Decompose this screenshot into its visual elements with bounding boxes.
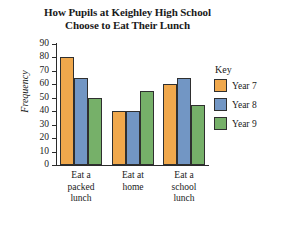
bar-year-7 (163, 84, 177, 165)
bar-chart: How Pupils at Keighley High School Choos… (0, 0, 288, 229)
bar-year-8 (126, 111, 140, 165)
chart-title-line-2: Choose to Eat Their Lunch (30, 19, 225, 32)
category-label-line: lunch (48, 193, 114, 205)
bar-group (60, 44, 102, 165)
legend: Key Year 7Year 8Year 9 (214, 64, 257, 136)
bar-year-8 (177, 78, 191, 165)
category-label-line: lunch (151, 193, 217, 205)
legend-title: Key (214, 64, 257, 75)
category-label-line: Eat a (151, 170, 217, 182)
bar-year-9 (140, 91, 154, 165)
y-tick-label: 70 (9, 66, 49, 76)
legend-item-year-9[interactable]: Year 9 (214, 117, 257, 130)
y-tick-label: 60 (9, 79, 49, 89)
bar-year-7 (60, 57, 74, 165)
legend-rows: Year 7Year 8Year 9 (214, 79, 257, 130)
legend-item-year-7[interactable]: Year 7 (214, 79, 257, 92)
y-tick-label: 0 (9, 160, 49, 170)
y-tick-mark (52, 165, 57, 166)
legend-swatch-icon (214, 79, 227, 92)
bar-year-7 (112, 111, 126, 165)
bar-year-8 (74, 78, 88, 165)
plot-area (57, 44, 208, 165)
chart-title-line-1: How Pupils at Keighley High School (30, 6, 225, 19)
legend-label: Year 8 (232, 100, 257, 110)
y-tick-label: 50 (9, 93, 49, 103)
y-tick-label: 20 (9, 133, 49, 143)
y-tick-label: 40 (9, 106, 49, 116)
legend-item-year-8[interactable]: Year 8 (214, 98, 257, 111)
y-tick-label: 30 (9, 120, 49, 130)
legend-label: Year 7 (232, 81, 257, 91)
legend-swatch-icon (214, 117, 227, 130)
y-tick-label: 90 (9, 39, 49, 49)
bar-group (163, 44, 205, 165)
category-label-line: school (151, 182, 217, 194)
y-tick-label: 10 (9, 147, 49, 157)
x-axis-category-label: Eat aschoollunch (151, 170, 217, 205)
bar-year-9 (88, 98, 102, 165)
x-axis-line (56, 165, 209, 166)
bar-year-9 (191, 105, 205, 166)
y-tick-label: 80 (9, 52, 49, 62)
chart-title: How Pupils at Keighley High School Choos… (30, 6, 225, 32)
legend-swatch-icon (214, 98, 227, 111)
bar-group (112, 44, 154, 165)
legend-label: Year 9 (232, 119, 257, 129)
